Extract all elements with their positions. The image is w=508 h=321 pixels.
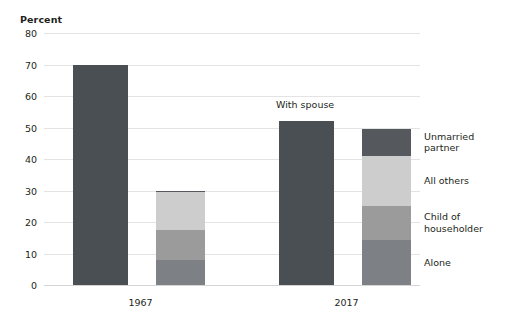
- chart-container: Percent 8070605040302010019672017With sp…: [0, 0, 508, 321]
- gridline: [44, 285, 420, 286]
- y-axis-tick-label: 50: [7, 122, 37, 133]
- legend-item-all-others[interactable]: All others: [424, 175, 469, 187]
- y-axis-tick-label: 80: [7, 28, 37, 39]
- y-axis-tick-label: 60: [7, 91, 37, 102]
- x-axis-label-1967: 1967: [128, 297, 152, 308]
- y-axis-tick-label: 40: [7, 154, 37, 165]
- legend-item-alone[interactable]: Alone: [424, 257, 451, 269]
- bar-segment-child-of-householder[interactable]: [156, 230, 205, 260]
- x-axis-label-2017: 2017: [334, 297, 358, 308]
- stacked-bar-1967[interactable]: [156, 191, 205, 286]
- bar-segment-unmarried-partner[interactable]: [362, 129, 411, 156]
- bar-segment-all-others[interactable]: [156, 192, 205, 229]
- y-axis-tick-label: 0: [7, 280, 37, 291]
- y-axis-tick-label: 20: [7, 217, 37, 228]
- y-axis-tick-label: 10: [7, 248, 37, 259]
- bar-segment-alone[interactable]: [156, 260, 205, 285]
- legend-item-child-of-householder[interactable]: Child of householder: [424, 211, 483, 234]
- bar-segment-child-of-householder[interactable]: [362, 206, 411, 239]
- plot-area: 8070605040302010019672017With spouse: [44, 33, 420, 285]
- bar-segment-alone[interactable]: [362, 240, 411, 285]
- y-axis-tick-label: 70: [7, 59, 37, 70]
- bar-with-spouse-2017[interactable]: [279, 121, 334, 285]
- y-axis-tick-label: 30: [7, 185, 37, 196]
- gridline: [44, 33, 420, 34]
- bar-with-spouse-1967[interactable]: [73, 65, 128, 286]
- bar-segment-all-others[interactable]: [362, 156, 411, 206]
- y-axis-title: Percent: [20, 14, 62, 25]
- stacked-bar-2017[interactable]: [362, 129, 411, 285]
- annotation-with-spouse: With spouse: [276, 99, 334, 110]
- legend-item-unmarried-partner[interactable]: Unmarried partner: [424, 131, 474, 154]
